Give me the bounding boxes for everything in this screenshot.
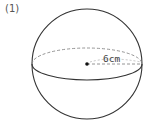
equator-back-dashed bbox=[32, 48, 142, 64]
radius-label: 6cm bbox=[103, 53, 120, 64]
center-point bbox=[85, 62, 89, 66]
equator-front-solid bbox=[32, 64, 142, 80]
sphere-diagram: 6cm bbox=[0, 0, 146, 129]
